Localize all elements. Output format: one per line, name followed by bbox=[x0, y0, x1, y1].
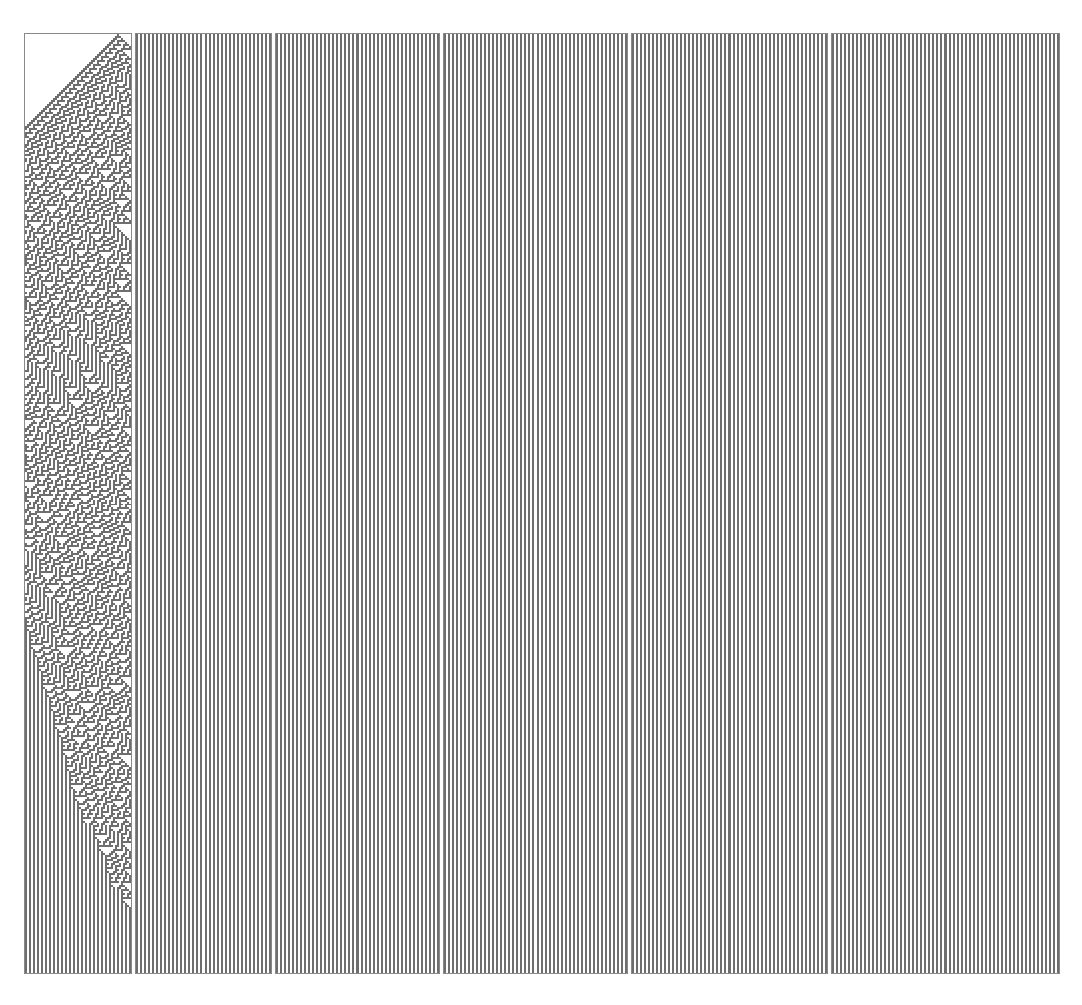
ca-canvas-3 bbox=[276, 34, 439, 973]
ca-panel-5 bbox=[631, 33, 828, 974]
ca-canvas-5 bbox=[632, 34, 827, 973]
ca-canvas-4 bbox=[444, 34, 627, 973]
panel-strip bbox=[24, 33, 1060, 974]
ca-canvas-2 bbox=[136, 34, 271, 973]
ca-panel-1 bbox=[24, 33, 132, 974]
ca-canvas-1 bbox=[25, 34, 131, 973]
ca-panel-3 bbox=[275, 33, 440, 974]
ca-canvas-6 bbox=[832, 34, 1059, 973]
ca-panel-2 bbox=[135, 33, 272, 974]
ca-panel-4 bbox=[443, 33, 628, 974]
figure-root bbox=[0, 0, 1082, 1005]
ca-panel-6 bbox=[831, 33, 1060, 974]
